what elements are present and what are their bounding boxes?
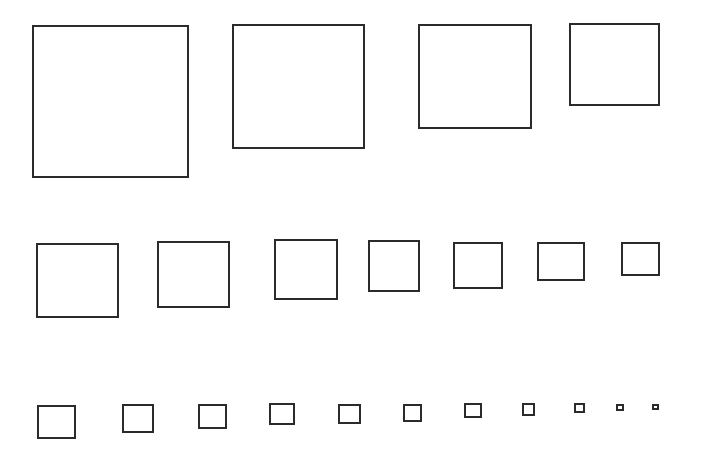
row-3-square-1 bbox=[37, 405, 76, 439]
row-3-square-2 bbox=[122, 404, 154, 433]
row-2-square-6 bbox=[537, 242, 585, 281]
row-3-square-5 bbox=[338, 404, 361, 424]
row-3-square-8 bbox=[522, 403, 535, 416]
row-1-square-2 bbox=[232, 24, 365, 149]
row-1-square-3 bbox=[418, 24, 532, 129]
row-3-square-10 bbox=[616, 404, 624, 411]
row-2-square-1 bbox=[36, 243, 119, 318]
row-1-square-1 bbox=[32, 25, 189, 178]
row-3-square-7 bbox=[464, 403, 482, 418]
row-2-square-2 bbox=[157, 241, 230, 308]
row-3-square-6 bbox=[403, 404, 422, 422]
row-2-square-4 bbox=[368, 240, 420, 292]
row-3-square-11 bbox=[652, 404, 659, 410]
row-3-square-3 bbox=[198, 404, 227, 429]
row-1-square-4 bbox=[569, 23, 660, 106]
row-2-square-7 bbox=[621, 242, 660, 276]
row-2-square-5 bbox=[453, 242, 503, 289]
row-3-square-9 bbox=[574, 403, 585, 413]
row-3-square-4 bbox=[269, 403, 295, 425]
row-2-square-3 bbox=[274, 239, 338, 300]
